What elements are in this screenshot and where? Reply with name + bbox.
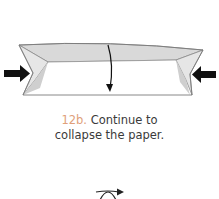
push-arrow-right-icon xyxy=(4,65,30,82)
step-text-1: Continue to xyxy=(91,113,158,127)
paper-body xyxy=(23,60,190,95)
turn-over-icon xyxy=(88,176,128,199)
step-number: 12b. xyxy=(61,113,87,127)
caption-line-1: 12b. Continue to xyxy=(0,113,219,128)
step-text-2: collapse the paper. xyxy=(0,128,219,143)
origami-diagram xyxy=(0,0,219,120)
push-arrow-left-icon xyxy=(192,66,216,83)
step-caption: 12b. Continue to collapse the paper. xyxy=(0,113,219,143)
